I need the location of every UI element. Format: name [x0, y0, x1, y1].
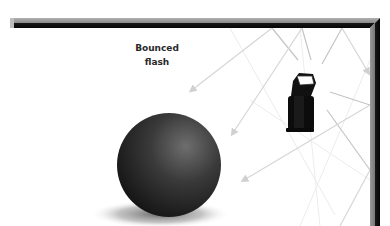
speedlight-flash-icon [286, 73, 316, 132]
side-wall [370, 18, 380, 226]
diagram-label: Bounced flash [128, 41, 186, 69]
bounced-flash-diagram [0, 0, 390, 226]
label-line-1: Bounced [128, 41, 186, 55]
light-rays [272, 28, 370, 170]
ceiling-wall [10, 18, 380, 28]
sphere-subject [117, 113, 221, 217]
bounced-rays [192, 28, 370, 226]
label-line-2: flash [128, 55, 186, 69]
